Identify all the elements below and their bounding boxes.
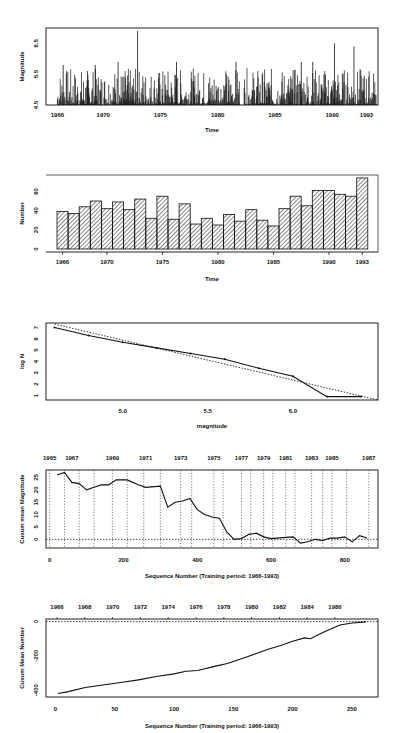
- y-axis-label: log N: [19, 354, 25, 369]
- x-tick-label: 1980: [211, 259, 225, 265]
- bar-1976: [168, 219, 179, 249]
- top-year-label: 1980: [245, 604, 259, 610]
- x-tick-label: 0: [54, 706, 58, 712]
- data-point: [258, 367, 260, 369]
- x-tick-label: 1990: [322, 259, 336, 265]
- bar-1984: [257, 220, 268, 249]
- top-year-label: 1966: [50, 604, 64, 610]
- y-tick-label: 7: [33, 325, 39, 329]
- top-year-label: 1969: [106, 455, 120, 461]
- data-point: [326, 396, 328, 398]
- bar-1986: [279, 209, 290, 249]
- top-year-label: 1974: [162, 604, 176, 610]
- fit-line: [55, 324, 378, 400]
- y-tick-label: 60: [33, 187, 39, 194]
- top-year-label: 1983: [305, 455, 319, 461]
- bar-1993: [357, 178, 368, 249]
- x-tick-label: 1970: [97, 112, 111, 118]
- plot-frame: [46, 470, 378, 548]
- bar-1982: [235, 221, 246, 249]
- x-tick-label: 150: [228, 706, 239, 712]
- bar-1978: [190, 224, 201, 249]
- magnitude-spikes: [57, 31, 376, 105]
- events-per-year-chart: NumberTime196619701975198019851990199302…: [0, 140, 401, 290]
- y-tick-label: 0: [33, 247, 39, 251]
- cusum-magnitude-chart: Cusum mean MagnitudeSequence Number (Tra…: [0, 440, 401, 590]
- top-year-label: 1976: [189, 604, 203, 610]
- y-axis-label: Cusum Mean Number: [19, 627, 25, 689]
- top-year-label: 1972: [134, 604, 148, 610]
- x-tick-label: 600: [266, 557, 277, 563]
- x-tick-label: 1975: [154, 112, 168, 118]
- bar-1974: [146, 218, 157, 249]
- y-tick-label: 20: [33, 486, 39, 493]
- bar-1970: [101, 209, 112, 249]
- bar-1990: [323, 190, 334, 249]
- cusum-number-chart: Cusum Mean NumberSequence Number (Traini…: [0, 590, 401, 733]
- bar-1979: [201, 218, 212, 249]
- data-point: [190, 353, 192, 355]
- bar-1983: [246, 210, 257, 249]
- y-tick-label: -200: [33, 649, 39, 662]
- bar-1991: [335, 194, 346, 249]
- x-tick-label: 5.0: [118, 408, 127, 414]
- data-point: [88, 334, 90, 336]
- observed-line: [55, 328, 361, 397]
- x-tick-label: 0: [48, 557, 52, 563]
- top-year-label: 1977: [235, 455, 249, 461]
- top-year-label: 1971: [139, 455, 153, 461]
- bar-1973: [135, 199, 146, 249]
- magnitude-time-plot: MagnitudeTime196619701975198019851990199…: [0, 0, 401, 140]
- bar-1988: [301, 206, 312, 249]
- top-year-label: 1986: [328, 604, 342, 610]
- magnitude-time-chart: MagnitudeTime196619701975198019851990199…: [0, 0, 401, 140]
- x-axis-label: Time: [205, 127, 220, 133]
- top-year-label: 1978: [217, 604, 231, 610]
- x-tick-label: 1975: [156, 259, 170, 265]
- y-tick-label: 1: [33, 393, 39, 397]
- top-year-label: 1979: [257, 455, 271, 461]
- y-tick-label: 10: [33, 511, 39, 518]
- y-tick-label: 6: [33, 337, 39, 341]
- top-year-label: 1973: [174, 455, 188, 461]
- y-tick-label: 5.5: [33, 69, 39, 78]
- y-tick-label: 4.5: [33, 100, 39, 109]
- x-tick-label: 1993: [356, 259, 370, 265]
- bar-1969: [90, 201, 101, 249]
- x-axis-label: Time: [205, 276, 220, 282]
- y-axis-label: Number: [19, 202, 25, 225]
- y-tick-label: 5: [33, 348, 39, 352]
- data-point: [224, 358, 226, 360]
- data-point: [54, 327, 56, 329]
- top-year-label: 1982: [273, 604, 287, 610]
- y-tick-label: 2: [33, 382, 39, 386]
- y-tick-label: 15: [33, 498, 39, 505]
- cusum-number-plot: Cusum Mean NumberSequence Number (Traini…: [0, 590, 401, 733]
- data-point: [122, 341, 124, 343]
- top-year-label: 1970: [106, 604, 120, 610]
- log-n-magnitude-plot: log Nmagnitude5.05.56.01234567: [0, 300, 401, 440]
- bar-1966: [57, 212, 68, 249]
- y-tick-label: 3: [33, 370, 39, 374]
- x-axis-label: Sequence Number (Training period: 1966-1…: [145, 573, 279, 579]
- bar-1972: [124, 210, 135, 249]
- top-year-label: 1984: [301, 604, 315, 610]
- cusum-magnitude-plot: Cusum mean MagnitudeSequence Number (Tra…: [0, 440, 401, 590]
- bar-1975: [157, 196, 168, 249]
- gutenberg-richter-chart: log Nmagnitude5.05.56.01234567: [0, 300, 401, 440]
- y-tick-label: -400: [33, 683, 39, 696]
- x-tick-label: 800: [340, 557, 351, 563]
- bars: [57, 178, 368, 249]
- x-tick-label: 250: [347, 706, 358, 712]
- x-tick-label: 100: [169, 706, 180, 712]
- bar-1981: [224, 214, 235, 249]
- y-tick-label: 4: [33, 359, 39, 363]
- data-point: [292, 375, 294, 377]
- y-tick-label: 5: [33, 525, 39, 529]
- top-year-label: 1965: [43, 455, 57, 461]
- bar-1987: [290, 196, 301, 249]
- bar-1971: [113, 202, 124, 249]
- x-tick-label: 1966: [56, 259, 70, 265]
- cusum-line: [57, 472, 367, 543]
- events-per-year-plot: NumberTime196619701975198019851990199302…: [0, 140, 401, 290]
